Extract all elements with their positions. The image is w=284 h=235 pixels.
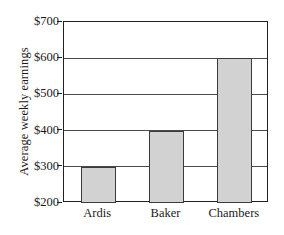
y-axis-tick bbox=[57, 21, 62, 22]
x-axis-tick-label: Ardis bbox=[63, 205, 131, 221]
y-axis-tick bbox=[57, 202, 62, 203]
y-axis-tick bbox=[57, 57, 62, 58]
y-axis-tick-label: $700 bbox=[15, 15, 59, 27]
y-axis-tick-label: $400 bbox=[15, 124, 59, 136]
y-axis-tick-labels: $700$600$500$400$300$200 bbox=[14, 0, 59, 235]
y-axis-tick-label: $300 bbox=[15, 160, 59, 172]
y-axis-tick bbox=[57, 129, 62, 130]
y-axis-tick-label: $200 bbox=[15, 196, 59, 208]
x-axis-tick-labels: ArdisBakerChambers bbox=[63, 205, 268, 223]
x-axis-tick-label: Baker bbox=[131, 205, 199, 221]
y-axis-tick-label: $500 bbox=[15, 87, 59, 99]
y-axis-tick bbox=[57, 93, 62, 94]
y-axis-tick-label: $600 bbox=[15, 51, 59, 63]
y-axis-tick bbox=[57, 165, 62, 166]
bar-chart: Average weekly earnings $700$600$500$400… bbox=[0, 0, 284, 235]
y-axis-tick-marks bbox=[63, 21, 268, 202]
x-axis-tick-label: Chambers bbox=[200, 205, 268, 221]
